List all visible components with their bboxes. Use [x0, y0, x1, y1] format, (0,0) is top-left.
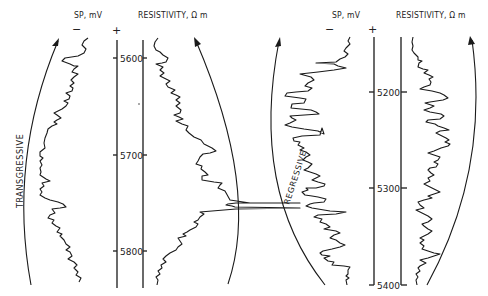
left-depth-5800: 5800	[120, 247, 143, 257]
right-depth-5200: 5200	[377, 88, 400, 98]
regressive-label: REGRESSIVE	[282, 149, 308, 205]
left-resistivity-arrowhead-icon	[194, 37, 201, 47]
right-depth-5300: 5300	[377, 184, 400, 194]
right-depth-5400: 5400	[377, 281, 400, 291]
left-sp-minus: −	[72, 23, 81, 36]
left-sp-label: SP, mV	[74, 10, 103, 20]
left-sp-curve	[40, 38, 88, 282]
left-resistivity-label: RESISTIVITY, Ω m	[138, 10, 208, 20]
left-depth-5600: 5600	[120, 54, 143, 64]
right-resistivity-label: RESISTIVITY, Ω m	[396, 10, 466, 20]
left-resistivity-curve	[154, 38, 300, 285]
well-log-diagram: SP, mV − + RESISTIVITY, Ω m 5600 5700 58…	[0, 0, 488, 296]
left-resistivity-trend-arc	[196, 41, 239, 284]
right-resistivity-arrowhead-icon	[468, 36, 475, 45]
right-sp-minus: −	[325, 23, 334, 36]
left-panel: SP, mV − + RESISTIVITY, Ω m 5600 5700 58…	[16, 10, 300, 288]
transgressive-label: TRANSGRESSIVE	[16, 134, 25, 209]
right-panel: SP, mV − + RESISTIVITY, Ω m 5200 5300 54…	[271, 10, 476, 291]
right-sp-plus: +	[368, 23, 377, 36]
right-resistivity-curve	[412, 37, 450, 285]
left-depth-5700: 5700	[120, 151, 143, 161]
right-sp-curve	[285, 37, 350, 285]
left-trend-arrowhead-icon	[52, 38, 59, 46]
right-sp-label: SP, mV	[332, 10, 361, 20]
left-sp-plus: +	[112, 24, 121, 37]
right-trend-arrowhead-icon	[275, 37, 281, 47]
